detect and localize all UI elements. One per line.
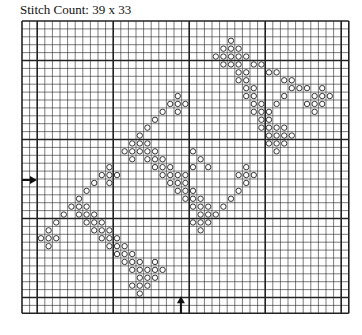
stitch-symbol bbox=[122, 149, 127, 154]
stitch-symbol bbox=[92, 180, 97, 185]
stitch-symbol bbox=[236, 54, 241, 59]
stitch-symbol bbox=[130, 149, 135, 154]
stitch-symbol bbox=[183, 188, 188, 193]
stitch-symbol bbox=[274, 141, 279, 146]
stitch-symbol bbox=[175, 180, 180, 185]
stitch-symbol bbox=[160, 267, 165, 272]
stitch-symbol bbox=[130, 267, 135, 272]
stitch-symbol bbox=[259, 109, 264, 114]
stitch-symbol bbox=[251, 172, 256, 177]
stitch-symbol bbox=[99, 220, 104, 225]
stitch-symbol bbox=[213, 212, 218, 217]
stitch-symbol bbox=[175, 93, 180, 98]
stitch-symbol bbox=[282, 93, 287, 98]
stitch-symbol bbox=[99, 228, 104, 233]
stitch-symbol bbox=[76, 196, 81, 201]
stitch-symbol bbox=[145, 149, 150, 154]
stitch-symbol bbox=[236, 62, 241, 67]
stitch-symbol bbox=[297, 85, 302, 90]
stitch-symbol bbox=[274, 101, 279, 106]
stitch-symbol bbox=[54, 220, 59, 225]
stitch-symbol bbox=[137, 149, 142, 154]
stitch-symbol bbox=[114, 243, 119, 248]
stitch-symbol bbox=[160, 157, 165, 162]
stitch-symbol bbox=[84, 212, 89, 217]
stitch-symbol bbox=[190, 188, 195, 193]
stitch-symbol bbox=[137, 133, 142, 138]
stitch-symbol bbox=[282, 125, 287, 130]
stitch-symbol bbox=[175, 172, 180, 177]
stitch-symbol bbox=[244, 70, 249, 75]
stitch-symbol bbox=[99, 172, 104, 177]
stitch-symbol bbox=[160, 109, 165, 114]
stitch-symbol bbox=[175, 109, 180, 114]
stitch-symbol bbox=[69, 204, 74, 209]
stitch-symbol bbox=[122, 243, 127, 248]
stitch-symbol bbox=[244, 54, 249, 59]
stitch-symbol bbox=[92, 212, 97, 217]
stitch-symbol bbox=[251, 62, 256, 67]
stitch-symbol bbox=[198, 157, 203, 162]
stitch-symbol bbox=[228, 196, 233, 201]
stitch-symbol bbox=[228, 54, 233, 59]
stitch-symbol bbox=[107, 164, 112, 169]
stitch-symbol bbox=[114, 236, 119, 241]
stitch-symbol bbox=[137, 283, 142, 288]
stitch-symbol bbox=[312, 93, 317, 98]
stitch-symbol bbox=[198, 204, 203, 209]
stitch-symbol bbox=[251, 93, 256, 98]
stitch-symbol bbox=[145, 283, 150, 288]
stitch-symbol bbox=[152, 267, 157, 272]
stitch-symbol bbox=[76, 212, 81, 217]
stitch-symbol bbox=[266, 109, 271, 114]
stitch-symbol bbox=[236, 172, 241, 177]
stitch-symbol bbox=[206, 164, 211, 169]
stitch-symbol bbox=[289, 78, 294, 83]
stitch-symbol bbox=[304, 85, 309, 90]
stitch-symbol bbox=[152, 164, 157, 169]
stitch-symbol bbox=[289, 85, 294, 90]
stitch-symbol bbox=[84, 204, 89, 209]
stitch-symbol bbox=[274, 70, 279, 75]
stitch-symbol bbox=[228, 38, 233, 43]
stitch-symbol bbox=[46, 228, 51, 233]
stitch-symbol bbox=[221, 46, 226, 51]
stitch-symbol bbox=[168, 164, 173, 169]
stitch-symbol bbox=[168, 180, 173, 185]
stitch-symbol bbox=[190, 149, 195, 154]
stitch-symbol bbox=[92, 228, 97, 233]
stitch-symbol bbox=[122, 251, 127, 256]
stitch-symbol bbox=[137, 141, 142, 146]
stitch-symbol bbox=[266, 141, 271, 146]
stitch-symbol bbox=[114, 172, 119, 177]
stitch-symbol bbox=[251, 109, 256, 114]
stitch-symbol bbox=[282, 141, 287, 146]
stitch-symbol bbox=[244, 172, 249, 177]
stitch-symbol bbox=[152, 259, 157, 264]
stitch-symbol bbox=[259, 117, 264, 122]
stitch-symbol bbox=[244, 78, 249, 83]
stitch-symbol bbox=[236, 188, 241, 193]
stitch-symbol bbox=[274, 133, 279, 138]
stitch-symbol bbox=[282, 78, 287, 83]
stitch-symbol bbox=[84, 220, 89, 225]
stitch-symbol bbox=[312, 109, 317, 114]
stitch-symbol bbox=[84, 188, 89, 193]
stitch-symbol bbox=[327, 93, 332, 98]
stitch-symbol bbox=[244, 180, 249, 185]
stitch-symbol bbox=[54, 236, 59, 241]
stitch-symbol bbox=[130, 259, 135, 264]
stitch-symbol bbox=[46, 243, 51, 248]
stitch-symbol bbox=[114, 251, 119, 256]
stitch-symbol bbox=[183, 101, 188, 106]
stitch-symbol bbox=[221, 54, 226, 59]
cross-stitch-chart bbox=[0, 0, 362, 335]
stitch-symbol bbox=[312, 101, 317, 106]
stitch-symbol bbox=[320, 101, 325, 106]
stitch-symbol bbox=[130, 283, 135, 288]
stitch-symbol bbox=[289, 133, 294, 138]
center-column-arrow-icon bbox=[177, 296, 185, 313]
stitch-symbol bbox=[183, 172, 188, 177]
stitch-symbol bbox=[190, 164, 195, 169]
stitch-symbol bbox=[183, 196, 188, 201]
